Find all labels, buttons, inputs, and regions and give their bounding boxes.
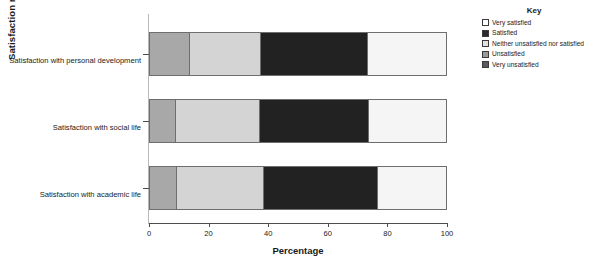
bar-segment [150,100,176,142]
x-tick-label: 60 [324,229,332,238]
legend-swatch-icon [482,51,489,58]
bar-segment [368,33,446,75]
bar-segment [378,167,446,209]
legend: Key Very satisfiedSatisfiedNeither unsat… [482,6,594,71]
bar-segment [177,167,264,209]
stacked-bar [149,166,447,210]
legend-item: Neither unsatisfied nor satisfied [482,39,594,48]
legend-items: Very satisfiedSatisfiedNeither unsatisfi… [482,18,594,69]
bar-row [0,166,594,210]
bar-segment [260,100,370,142]
x-tick-mark [447,223,448,227]
x-tick-mark [328,223,329,227]
x-tick-mark [209,223,210,227]
legend-label: Satisfied [492,29,517,37]
stacked-bar-chart: Satisfaction ratings Satisfaction with p… [0,0,594,273]
bar-segment [261,33,368,75]
legend-item: Very satisfied [482,18,594,27]
legend-label: Unsatisfied [492,50,525,58]
bar-segment [150,167,177,209]
bar-segment [176,100,260,142]
legend-label: Neither unsatisfied nor satisfied [492,40,584,48]
x-tick-label: 0 [147,229,151,238]
bar-row [0,99,594,143]
x-tick-mark [387,223,388,227]
legend-item: Satisfied [482,29,594,38]
x-tick-label: 80 [383,229,391,238]
legend-swatch-icon [482,30,489,37]
x-tick-label: 20 [204,229,212,238]
bar-segment [150,33,190,75]
legend-item: Unsatisfied [482,50,594,59]
legend-label: Very satisfied [492,19,531,27]
x-tick-mark [268,223,269,227]
legend-label: Very unsatisfied [492,61,539,69]
legend-swatch-icon [482,19,489,26]
x-axis-title: Percentage [149,245,447,256]
x-tick-label: 40 [264,229,272,238]
x-axis-line [149,223,448,224]
stacked-bar [149,99,447,143]
legend-swatch-icon [482,40,489,47]
legend-title: Key [484,6,584,15]
bar-segment [369,100,446,142]
bar-segment [264,167,378,209]
stacked-bar [149,32,447,76]
legend-item: Very unsatisfied [482,60,594,69]
x-tick-mark [149,223,150,227]
x-tick-label: 100 [441,229,454,238]
legend-swatch-icon [482,61,489,68]
bar-segment [190,33,261,75]
